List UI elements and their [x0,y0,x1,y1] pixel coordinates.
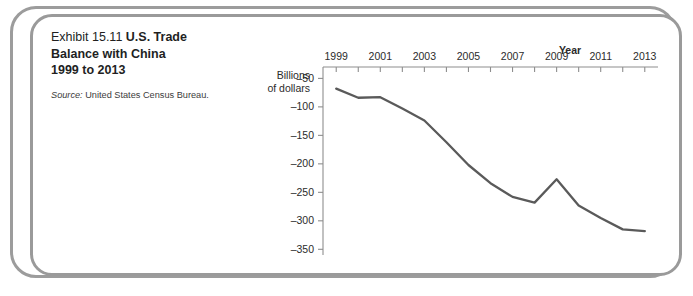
x-axis-ticks [336,67,645,72]
exhibit-title-line2: Balance with China [51,47,166,61]
y-tick-label: –50 [296,72,314,84]
exhibit-container: Exhibit 15.11 U.S. TradeBalance with Chi… [30,14,682,276]
y-tick-label: –100 [291,100,315,112]
x-tick-label: 2011 [589,50,612,62]
exhibit-page: applying online the ofter a speci had do… [0,0,693,296]
source-text: United States Census Bureau. [83,90,209,100]
exhibit-title-line1: U.S. Trade [126,30,187,44]
trade-balance-chart: Billions of dollars Year 199920012003200… [248,37,668,267]
exhibit-title-line3: 1999 to 2013 [51,63,125,77]
x-tick-label: 2009 [545,50,569,62]
chart-svg: Billions of dollars Year 199920012003200… [248,37,668,267]
trade-balance-data-line [336,89,645,231]
exhibit-source: Source: United States Census Bureau. [51,89,226,101]
x-tick-label: 2001 [369,50,393,62]
y-axis-tick-labels: –50–100–150–200–250–300–350 [291,72,315,255]
exhibit-caption-block: Exhibit 15.11 U.S. TradeBalance with Chi… [51,29,226,101]
x-tick-label: 2013 [633,50,657,62]
x-tick-label: 2005 [457,50,481,62]
x-tick-label: 2007 [501,50,525,62]
x-axis-tick-labels: 19992001200320052007200920112013 [325,50,657,62]
exhibit-number: Exhibit 15.11 [51,30,126,44]
y-tick-label: –300 [291,214,315,226]
y-axis-ticks [318,78,323,249]
y-tick-label: –200 [291,157,315,169]
x-tick-label: 1999 [325,50,349,62]
exhibit-title: Exhibit 15.11 U.S. TradeBalance with Chi… [51,29,226,79]
x-tick-label: 2003 [413,50,437,62]
y-tick-label: –150 [291,129,315,141]
y-tick-label: –350 [291,243,315,255]
y-tick-label: –250 [291,186,315,198]
source-label: Source: [51,90,83,100]
